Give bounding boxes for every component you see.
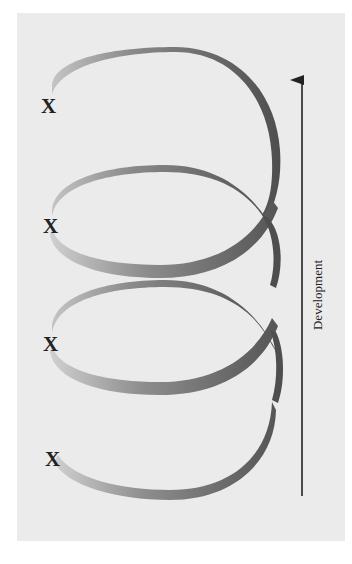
ribbon-loop2-upper	[52, 165, 278, 240]
ribbon-loop3-upper	[52, 280, 278, 355]
spiral-ribbon	[0, 0, 352, 564]
marker-x-2: X	[43, 216, 58, 237]
marker-x-1: X	[41, 96, 56, 117]
ribbon-top-arc	[52, 47, 280, 218]
ribbon-loop2-lower	[50, 200, 278, 278]
marker-x-4: X	[45, 449, 60, 470]
ribbon-right-connector-2	[270, 330, 283, 403]
marker-x-3: X	[43, 334, 58, 355]
ribbon-loop3-lower	[50, 318, 278, 395]
ribbon-bottom-arc	[54, 402, 276, 500]
development-axis-label: Development	[310, 260, 326, 330]
